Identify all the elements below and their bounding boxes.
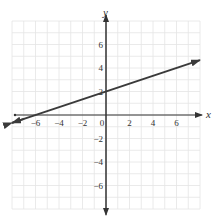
axes: [14, 15, 202, 215]
y-tick-label: −4: [93, 157, 103, 167]
y-tick-label: −2: [93, 134, 103, 144]
coordinate-plane: −6−4−20246−6−4−2246 x y: [0, 0, 217, 217]
y-tick-label: 4: [99, 63, 104, 73]
x-tick-label: 2: [127, 118, 132, 128]
x-tick-label: −4: [54, 118, 64, 128]
x-tick-label: 4: [151, 118, 156, 128]
x-tick-label: 0: [100, 118, 105, 128]
x-tick-label: −6: [31, 118, 41, 128]
x-tick-label: 6: [174, 118, 179, 128]
y-axis-label: y: [102, 6, 108, 18]
y-tick-label: 6: [99, 40, 104, 50]
x-tick-label: −2: [78, 118, 88, 128]
x-axis-label: x: [205, 108, 211, 120]
y-tick-label: −6: [93, 181, 103, 191]
y-tick-label: 2: [99, 87, 104, 97]
